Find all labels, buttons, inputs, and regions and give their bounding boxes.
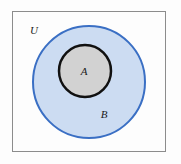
venn-diagram-canvas: U A B: [0, 0, 181, 164]
set-b-label: B: [101, 108, 108, 120]
venn-diagram-figure: U A B: [0, 0, 181, 164]
set-a-label: A: [80, 65, 88, 77]
universal-set-label: U: [30, 24, 39, 36]
